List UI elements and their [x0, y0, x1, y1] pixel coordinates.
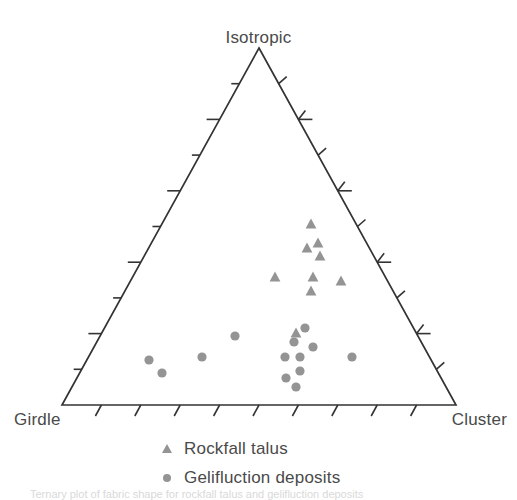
data-point-circle [300, 323, 309, 332]
data-point-triangle [313, 238, 324, 248]
legend-label-rockfall-talus: Rockfall talus [184, 439, 288, 459]
data-point-circle [291, 382, 300, 391]
data-point-circle [280, 352, 289, 361]
ternary-diagram-figure: Isotropic Girdle Cluster Rockfall talus … [0, 0, 517, 500]
series-rockfall-talus [270, 219, 347, 338]
data-point-triangle [302, 243, 313, 253]
data-point-circle [347, 352, 356, 361]
data-point-triangle [306, 286, 317, 296]
data-point-triangle [306, 219, 317, 229]
circle-marker-icon [150, 474, 184, 482]
data-point-triangle [315, 251, 326, 261]
vertex-label-isotropic: Isotropic [0, 28, 517, 48]
legend-item-rockfall-talus: Rockfall talus [150, 437, 340, 460]
data-point-circle [230, 331, 239, 340]
caption-text: Ternary plot of fabric shape for rockfal… [0, 488, 517, 500]
data-point-circle [289, 337, 298, 346]
data-point-triangle [291, 328, 302, 338]
left-axis-ticks [74, 84, 240, 370]
series-gelifluction-deposits [144, 323, 356, 391]
vertex-label-girdle: Girdle [14, 410, 61, 430]
data-point-triangle [270, 272, 281, 282]
data-point-circle [157, 368, 166, 377]
triangle-outline [62, 48, 456, 405]
legend-item-gelifluction-deposits: Gelifluction deposits [150, 466, 340, 489]
data-point-triangle [336, 276, 347, 286]
bottom-axis-ticks [95, 405, 416, 416]
data-point-circle [308, 342, 317, 351]
data-point-circle [295, 366, 304, 375]
data-point-circle [197, 352, 206, 361]
triangle-marker-icon [150, 444, 184, 453]
data-point-circle [144, 355, 153, 364]
legend-label-gelifluction-deposits: Gelifluction deposits [184, 468, 340, 488]
ternary-plot-canvas [0, 0, 517, 500]
data-point-circle [281, 373, 290, 382]
data-point-circle [295, 352, 304, 361]
chart-legend: Rockfall talus Gelifluction deposits [150, 437, 340, 489]
data-point-triangle [308, 272, 319, 282]
vertex-label-cluster: Cluster [452, 410, 507, 430]
caption-strip: Ternary plot of fabric shape for rockfal… [0, 488, 517, 500]
